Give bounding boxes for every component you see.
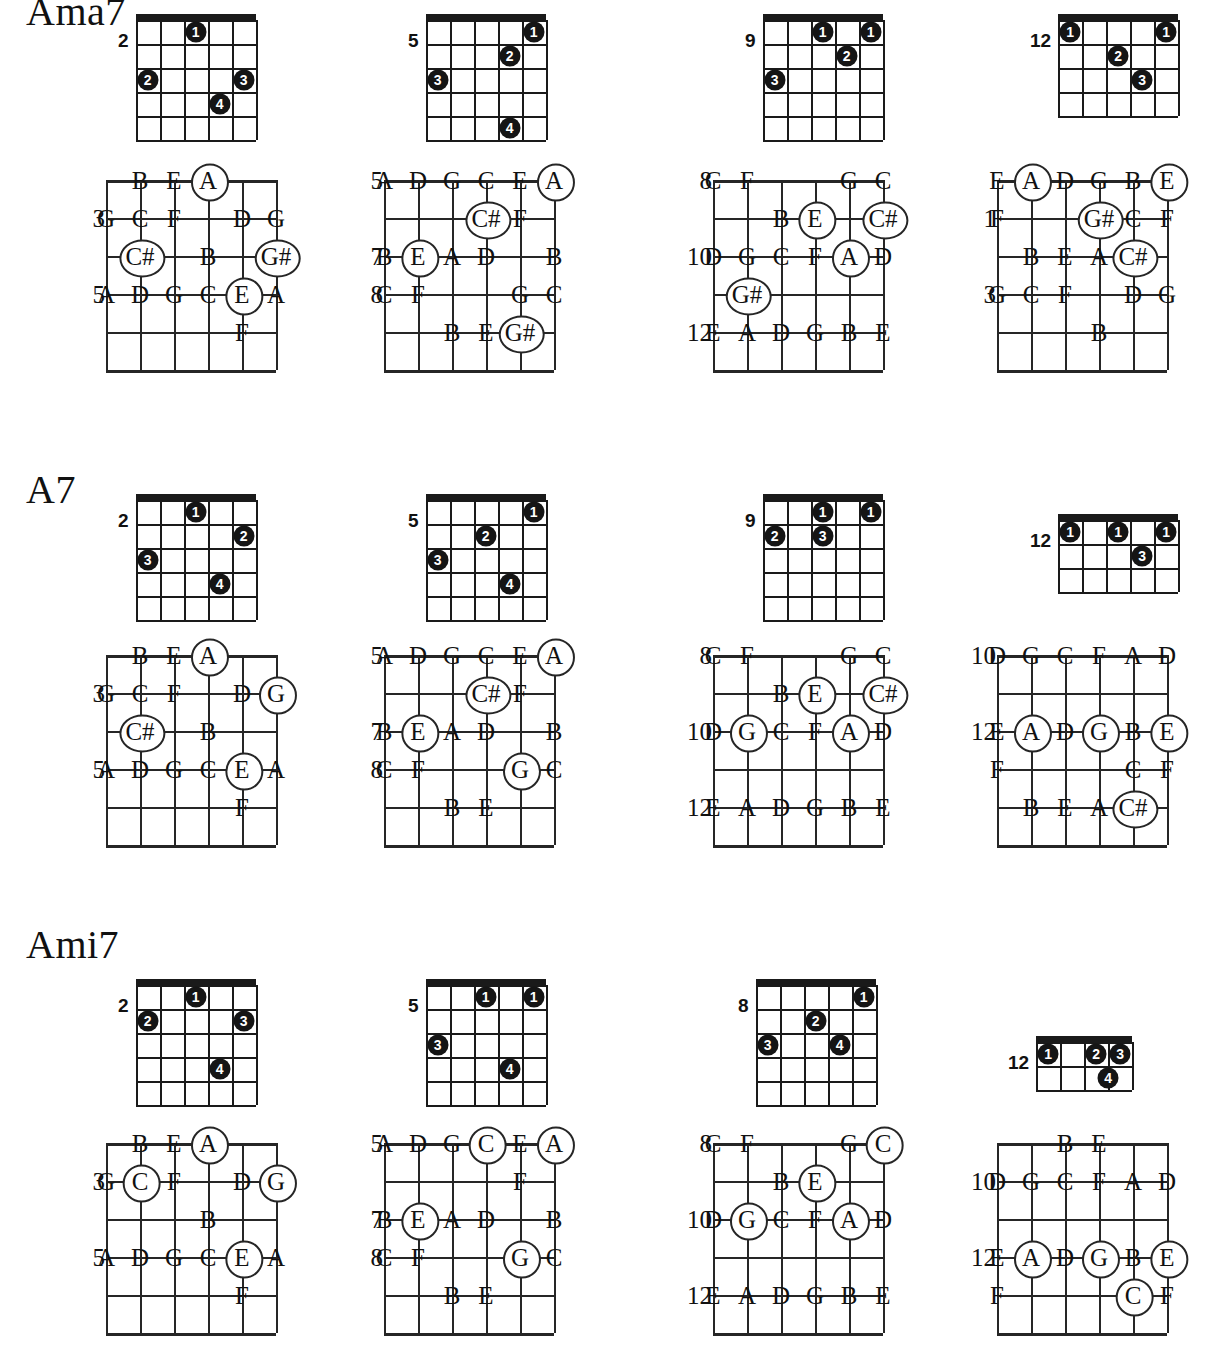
fret-line bbox=[713, 370, 883, 373]
chord-grid-fret-number: 8 bbox=[738, 985, 749, 1015]
fretboard-note: D bbox=[409, 168, 427, 193]
fretboard-note: C# bbox=[868, 206, 897, 231]
fretboard-note: C# bbox=[868, 681, 897, 706]
string-wire bbox=[804, 985, 806, 1105]
fretboard-note: C bbox=[875, 643, 892, 668]
fret-wire bbox=[763, 548, 883, 550]
fretboard-note: G# bbox=[261, 244, 292, 269]
finger-dot: 4 bbox=[1098, 1068, 1119, 1089]
fretboard-note: D bbox=[1056, 1245, 1074, 1270]
chord-grid-fret-number: 12 bbox=[1030, 20, 1051, 50]
fretboard-note: E bbox=[875, 1283, 890, 1308]
fret-wire bbox=[756, 1057, 876, 1059]
fretboard-note: G bbox=[443, 1131, 461, 1156]
fretboard-note: D bbox=[1158, 1169, 1176, 1194]
fretboard-note: F bbox=[1092, 643, 1106, 668]
fret-wire bbox=[136, 116, 256, 118]
fretboard-note: G bbox=[738, 244, 756, 269]
string-wire bbox=[256, 500, 258, 620]
fret-line bbox=[106, 807, 276, 809]
fretboard-note: F bbox=[411, 1245, 425, 1270]
fret-line bbox=[997, 1143, 1167, 1146]
string-wire bbox=[1082, 520, 1084, 592]
fretboard-note: F bbox=[235, 320, 249, 345]
fretboard-note: B bbox=[1125, 719, 1142, 744]
finger-dot: 4 bbox=[829, 1035, 850, 1056]
fretboard-note: B bbox=[444, 795, 461, 820]
fret-wire bbox=[1058, 116, 1178, 118]
fretboard-note: G bbox=[806, 1283, 824, 1308]
fretboard-note: B bbox=[841, 1283, 858, 1308]
fretboard-note: D bbox=[477, 244, 495, 269]
fret-wire bbox=[1036, 1090, 1132, 1092]
finger-dot: 1 bbox=[853, 987, 874, 1008]
fretboard-note: G bbox=[97, 1169, 115, 1194]
string-wire bbox=[232, 985, 234, 1105]
fretboard-note: F bbox=[808, 244, 822, 269]
chord-grid-3: 91123 bbox=[745, 500, 883, 620]
string-line bbox=[208, 1143, 210, 1333]
fretboard-note: D bbox=[409, 643, 427, 668]
chord-grid-4: 121234 bbox=[1008, 1042, 1132, 1090]
string-wire bbox=[474, 20, 476, 140]
fretboard-note: G bbox=[738, 1207, 756, 1232]
fretboard-note: D bbox=[704, 1207, 722, 1232]
string-wire bbox=[160, 500, 162, 620]
fret-line bbox=[384, 1333, 554, 1336]
fret-line bbox=[713, 1333, 883, 1336]
string-wire bbox=[1130, 20, 1132, 116]
fretboard-note: D bbox=[1056, 719, 1074, 744]
chord-grid-box: 1123 bbox=[763, 20, 883, 140]
fretboard-note: F bbox=[411, 757, 425, 782]
finger-dot: 1 bbox=[523, 987, 544, 1008]
finger-dot: 1 bbox=[523, 502, 544, 523]
fretboard-note: G bbox=[840, 168, 858, 193]
string-wire bbox=[160, 985, 162, 1105]
chord-grid-3: 81234 bbox=[738, 985, 876, 1105]
fret-line bbox=[106, 332, 276, 334]
fretboard-note: C bbox=[773, 719, 790, 744]
fretboard-note: F bbox=[513, 681, 527, 706]
fretboard-note: F bbox=[740, 1131, 754, 1156]
string-wire bbox=[522, 500, 524, 620]
string-wire bbox=[498, 20, 500, 140]
chord-grid-3: 91123 bbox=[745, 20, 883, 140]
fretboard-grid: 35BEAGCFDGBADGCEAF bbox=[106, 1143, 276, 1333]
fretboard-note: E bbox=[1091, 1131, 1106, 1156]
string-wire bbox=[763, 500, 765, 620]
chord-grid-2: 51234 bbox=[408, 20, 546, 140]
fret-wire bbox=[426, 1033, 546, 1035]
chord-grid-fret-number: 12 bbox=[1008, 1042, 1029, 1072]
fretboard-note: A bbox=[199, 643, 217, 668]
fretboard-note: G bbox=[267, 681, 285, 706]
chord-chart-sheet: Ama721234512349112312112335BEAGCFDGC#BG#… bbox=[0, 0, 1212, 1358]
fretboard-note: G bbox=[1158, 282, 1176, 307]
chord-grid-fret-number: 5 bbox=[408, 985, 419, 1015]
fretboard-note: E bbox=[512, 168, 527, 193]
fret-line bbox=[997, 370, 1167, 373]
fretboard-note: E bbox=[512, 1131, 527, 1156]
chord-grid-box: 1234 bbox=[756, 985, 876, 1105]
fretboard-note: G bbox=[511, 757, 529, 782]
fretboard-note: E bbox=[478, 795, 493, 820]
string-wire bbox=[546, 20, 548, 140]
fretboard-note: G bbox=[1022, 643, 1040, 668]
fretboard-note: G bbox=[443, 643, 461, 668]
fret-wire bbox=[426, 20, 546, 22]
fretboard-note: C bbox=[200, 1245, 217, 1270]
string-wire bbox=[1082, 20, 1084, 116]
fret-line bbox=[106, 1219, 276, 1221]
finger-dot: 1 bbox=[185, 22, 206, 43]
chord-family-title: Ama7 bbox=[26, 0, 126, 32]
fretboard-note: F bbox=[411, 282, 425, 307]
string-wire bbox=[852, 985, 854, 1105]
fret-wire bbox=[136, 44, 256, 46]
fret-line bbox=[384, 845, 554, 848]
fretboard-note: A bbox=[267, 282, 285, 307]
finger-dot: 2 bbox=[1108, 46, 1129, 67]
chord-grid-fret-number: 5 bbox=[408, 20, 419, 50]
fret-wire bbox=[136, 92, 256, 94]
fret-wire bbox=[426, 1009, 546, 1011]
fretboard-note: B bbox=[1023, 244, 1040, 269]
finger-dot: 3 bbox=[233, 70, 254, 91]
